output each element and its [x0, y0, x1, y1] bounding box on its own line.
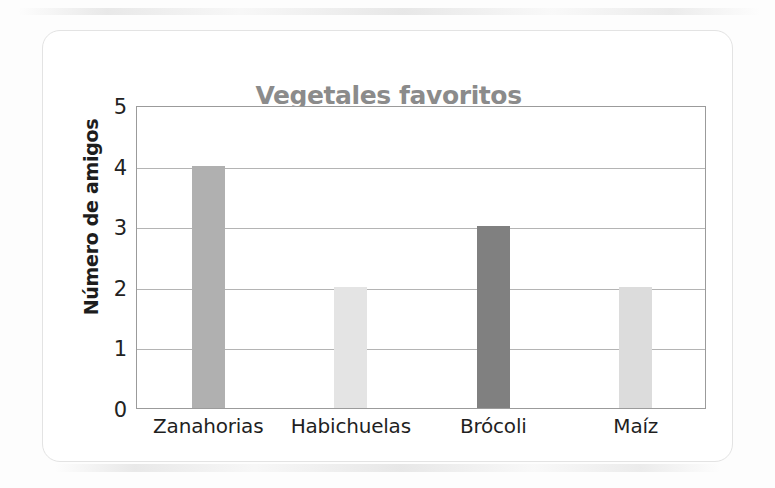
scanned-page: Vegetales favoritos Número de amigos 012…: [0, 0, 775, 488]
chart-card: Vegetales favoritos Número de amigos 012…: [42, 30, 733, 462]
x-tick-label: Maíz: [613, 414, 658, 438]
bar: [192, 166, 225, 408]
y-axis-title: Número de amigos: [80, 117, 102, 317]
y-tick-label: 2: [114, 278, 127, 299]
x-tick-label: Habichuelas: [291, 414, 411, 438]
y-tick-label: 3: [114, 218, 127, 239]
bar: [477, 226, 510, 408]
plot-area: 012345 ZanahoriasHabichuelasBrócoliMaíz: [136, 106, 706, 409]
bar: [334, 287, 367, 408]
x-tick-label: Zanahorias: [153, 414, 263, 438]
scan-artifact-bottom: [55, 464, 720, 472]
bar: [619, 287, 652, 408]
x-tick-label: Brócoli: [460, 414, 527, 438]
y-tick-label: 1: [114, 339, 127, 360]
y-tick-label: 0: [114, 400, 127, 421]
y-tick-label: 5: [114, 97, 127, 118]
y-tick-label: 4: [114, 157, 127, 178]
scan-artifact-top: [18, 8, 760, 15]
